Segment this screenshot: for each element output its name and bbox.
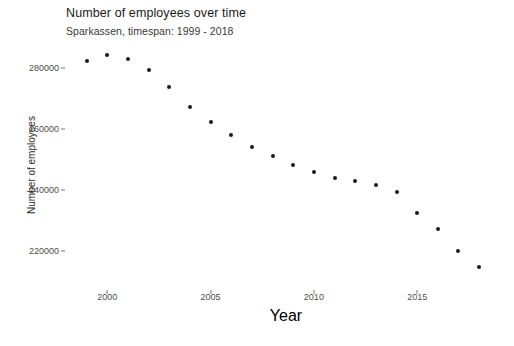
data-point bbox=[271, 154, 275, 158]
x-tick-mark bbox=[210, 290, 211, 294]
y-tick-label: 220000 bbox=[29, 246, 59, 256]
x-tick-mark bbox=[107, 290, 108, 294]
data-point bbox=[374, 183, 378, 187]
x-tick-mark bbox=[313, 290, 314, 294]
data-point bbox=[85, 59, 89, 63]
data-point bbox=[312, 170, 316, 174]
data-point bbox=[188, 105, 192, 109]
data-point bbox=[456, 249, 460, 253]
y-tick-mark bbox=[61, 68, 65, 69]
data-point bbox=[167, 85, 171, 89]
data-point bbox=[229, 133, 233, 137]
data-point bbox=[209, 120, 213, 124]
data-point bbox=[415, 211, 419, 215]
y-tick-mark bbox=[61, 129, 65, 130]
data-point bbox=[477, 265, 481, 269]
chart-container: Number of employees over time Sparkassen… bbox=[0, 0, 514, 346]
data-point bbox=[333, 176, 337, 180]
y-tick-label: 280000 bbox=[29, 63, 59, 73]
data-point bbox=[395, 190, 399, 194]
plot-panel bbox=[66, 44, 506, 290]
data-point bbox=[291, 163, 295, 167]
data-point bbox=[126, 57, 130, 61]
y-tick-mark bbox=[61, 189, 65, 190]
data-point bbox=[105, 53, 109, 57]
chart-subtitle: Sparkassen, timespan: 1999 - 2018 bbox=[66, 25, 233, 37]
data-point bbox=[436, 227, 440, 231]
chart-title: Number of employees over time bbox=[66, 6, 246, 20]
x-axis-title: Year bbox=[66, 307, 506, 325]
y-tick-label: 240000 bbox=[29, 185, 59, 195]
x-tick-mark bbox=[417, 290, 418, 294]
y-tick-label: 260000 bbox=[29, 124, 59, 134]
y-tick-mark bbox=[61, 250, 65, 251]
x-axis-title-label: Year bbox=[270, 307, 302, 324]
data-point bbox=[353, 179, 357, 183]
data-point bbox=[147, 68, 151, 72]
data-point bbox=[250, 145, 254, 149]
